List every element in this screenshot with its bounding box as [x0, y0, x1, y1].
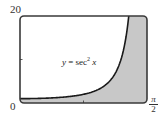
origin-label-0: 0 [10, 101, 16, 112]
curve-equation-label: y = sec2 x [62, 56, 96, 67]
y-axis-label-20: 20 [10, 4, 21, 15]
denominator-2: 2 [149, 105, 158, 114]
x-axis-label-pi-over-2: π 2 [149, 95, 158, 114]
eq-sec: = sec [66, 57, 87, 67]
eq-x: x [90, 57, 96, 67]
